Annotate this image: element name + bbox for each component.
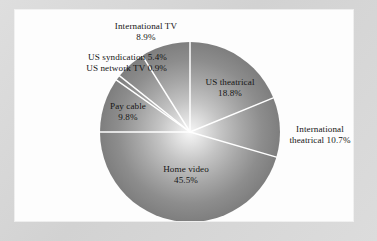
slice-label-us-theatrical-name: US theatrical (178, 77, 282, 88)
slice-label-international-tv: International TV 8.9% (88, 21, 204, 42)
slice-label-home-video: Home video 45.5% (138, 164, 234, 185)
slice-label-international-theatrical-line2: theatrical 10.7% (280, 135, 360, 146)
slice-label-pay-cable-value: 9.8% (91, 112, 165, 123)
slice-label-home-video-value: 45.5% (138, 175, 234, 186)
slice-label-us-network-tv-text: US network TV 0.9% (86, 63, 167, 73)
slice-label-us-syndication-text: US syndication 5.4% (88, 52, 167, 62)
figure-panel: International TV 8.9% US syndication 5.4… (15, 10, 353, 221)
slice-label-international-theatrical-line1: International (280, 124, 360, 135)
slice-label-international-tv-value: 8.9% (88, 32, 204, 43)
slice-label-home-video-name: Home video (138, 164, 234, 175)
slice-label-us-network-tv: US network TV 0.9% (17, 63, 167, 74)
slice-label-pay-cable-name: Pay cable (91, 101, 165, 112)
slice-label-us-theatrical: US theatrical 18.8% (178, 77, 282, 98)
slice-label-us-theatrical-value: 18.8% (178, 88, 282, 99)
slice-label-pay-cable: Pay cable 9.8% (91, 101, 165, 122)
figure-outer-frame: International TV 8.9% US syndication 5.4… (0, 0, 377, 241)
slice-label-us-syndication: US syndication 5.4% (17, 52, 167, 63)
slice-label-international-theatrical: International theatrical 10.7% (280, 124, 360, 145)
slice-label-international-tv-name: International TV (88, 21, 204, 32)
